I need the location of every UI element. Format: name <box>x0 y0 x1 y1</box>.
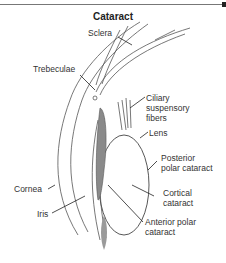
label-trebeculae: Trebeculae <box>33 64 75 74</box>
cornea-inner-curve <box>71 24 148 232</box>
label-anterior-1: Anterior polar <box>145 217 196 227</box>
trebeculae-ring <box>93 96 97 100</box>
label-ciliary-3: fibers <box>146 113 167 123</box>
label-sclera: Sclera <box>88 28 112 38</box>
label-cortical-2: cataract <box>163 198 193 208</box>
label-posterior-2: polar cataract <box>161 163 213 173</box>
label-anterior-2: cataract <box>145 227 175 237</box>
label-lens: Lens <box>149 128 167 138</box>
label-posterior-1: Posterior <box>161 153 195 163</box>
label-ciliary-1: Ciliary <box>146 93 170 103</box>
label-cortical-1: Cortical <box>163 188 192 198</box>
label-iris: Iris <box>37 209 48 219</box>
label-ciliary-2: suspensory <box>146 103 189 113</box>
label-cornea: Cornea <box>14 184 42 194</box>
